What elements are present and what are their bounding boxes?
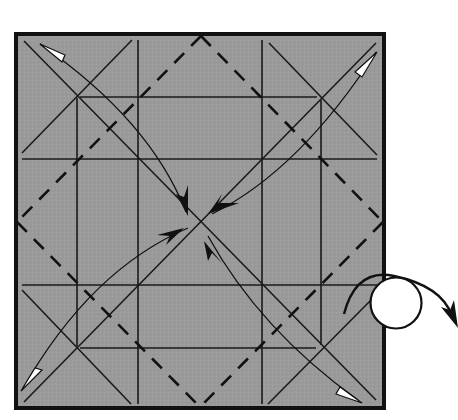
turn-over-arrowhead-icon [441, 300, 458, 328]
origami-diagram [0, 0, 458, 420]
turn-over-circle-icon [371, 278, 422, 329]
